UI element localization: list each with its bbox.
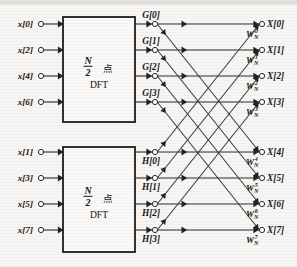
output-label-X2: X[2] bbox=[266, 71, 284, 81]
twiddle-label-3: WN3 bbox=[246, 106, 259, 118]
top-dft-block-denominator: 2 bbox=[85, 67, 91, 78]
mid-node-H1 bbox=[152, 175, 157, 180]
twiddle-label-0: WN0 bbox=[246, 28, 259, 40]
input-node-0 bbox=[38, 21, 43, 26]
edge-mid-arrowhead-1 bbox=[182, 47, 188, 54]
input-node-3 bbox=[38, 99, 43, 104]
mid-label-G3: G[3] bbox=[142, 88, 160, 98]
input-node-7 bbox=[38, 227, 43, 232]
dft-out-arrowhead-2 bbox=[146, 73, 152, 80]
input-node-2 bbox=[38, 73, 43, 78]
edge-start-arrowhead-1-5 bbox=[160, 55, 166, 61]
output-node-2 bbox=[259, 73, 264, 78]
mid-node-G2 bbox=[152, 73, 157, 78]
input-label-x7: x[7] bbox=[17, 225, 33, 235]
input-node-6 bbox=[38, 201, 43, 206]
bottom-dft-block-denominator: 2 bbox=[85, 197, 91, 208]
dft-out-arrowhead-5 bbox=[146, 175, 152, 182]
mid-label-G2: G[2] bbox=[142, 62, 160, 72]
mid-label-G0: G[0] bbox=[142, 10, 160, 20]
mid-node-H2 bbox=[152, 201, 157, 206]
edge-start-arrowhead-7-3 bbox=[160, 219, 166, 225]
dft-out-arrowhead-1 bbox=[146, 47, 152, 54]
twiddle-label-2: WN2 bbox=[246, 80, 259, 92]
fft-butterfly-diagram: x[0]x[2]x[4]x[6]x[1]x[3]x[5]x[7]N2点DFTN2… bbox=[0, 0, 297, 267]
output-label-X4: X[4] bbox=[266, 147, 284, 157]
input-label-x4: x[4] bbox=[17, 71, 33, 81]
twiddle-label-7: WN7 bbox=[246, 234, 259, 246]
input-label-x2: x[2] bbox=[17, 45, 33, 55]
edge-start-arrowhead-5-1 bbox=[160, 167, 166, 173]
mid-node-H3 bbox=[152, 227, 157, 232]
output-label-X3: X[3] bbox=[266, 97, 284, 107]
bottom-dft-block bbox=[63, 147, 135, 252]
mid-node-G3 bbox=[152, 99, 157, 104]
top-dft-block-point-char: 点 bbox=[103, 63, 113, 74]
dft-out-arrowhead-3 bbox=[146, 99, 152, 106]
edge-start-arrowhead-6-2 bbox=[160, 193, 166, 199]
bottom-dft-block-dft-label: DFT bbox=[90, 209, 108, 220]
output-label-X0: X[0] bbox=[266, 19, 284, 29]
bottom-dft-block-point-char: 点 bbox=[103, 193, 113, 204]
input-label-x3: x[3] bbox=[17, 173, 33, 183]
edge-start-arrowhead-3-7 bbox=[160, 107, 166, 113]
edge-mid-arrowhead-2 bbox=[182, 73, 188, 80]
mid-node-G0 bbox=[152, 21, 157, 26]
dft-out-arrowhead-7 bbox=[146, 227, 152, 234]
top-dft-block-numerator: N bbox=[83, 55, 92, 66]
output-node-1 bbox=[259, 47, 264, 52]
input-label-x0: x[0] bbox=[17, 19, 33, 29]
edge-start-arrowhead-0-4 bbox=[160, 29, 166, 35]
dft-out-arrowhead-4 bbox=[146, 149, 152, 156]
output-label-X1: X[1] bbox=[266, 45, 284, 55]
output-node-7 bbox=[259, 227, 264, 232]
input-node-5 bbox=[38, 175, 43, 180]
mid-label-H0: H[0] bbox=[141, 156, 160, 166]
output-label-X6: X[6] bbox=[266, 199, 284, 209]
mid-label-H3: H[3] bbox=[141, 234, 160, 244]
edge-mid-arrowhead-4 bbox=[182, 149, 188, 156]
mid-label-G1: G[1] bbox=[142, 36, 160, 46]
twiddle-label-4: WN4 bbox=[246, 156, 259, 168]
edge-mid-arrowhead-0 bbox=[182, 21, 188, 28]
output-node-6 bbox=[259, 201, 264, 206]
twiddle-label-6: WN6 bbox=[246, 208, 259, 220]
bottom-dft-block-numerator: N bbox=[83, 185, 92, 196]
edge-mid-arrowhead-6 bbox=[182, 201, 188, 208]
edge-start-arrowhead-2-6 bbox=[160, 81, 166, 87]
mid-label-H1: H[1] bbox=[141, 182, 160, 192]
diagram-canvas: x[0]x[2]x[4]x[6]x[1]x[3]x[5]x[7]N2点DFTN2… bbox=[0, 0, 297, 267]
output-node-0 bbox=[259, 21, 264, 26]
input-label-x6: x[6] bbox=[17, 97, 33, 107]
input-label-x1: x[1] bbox=[17, 147, 33, 157]
top-dft-block-dft-label: DFT bbox=[90, 79, 108, 90]
edge-mid-arrowhead-3 bbox=[182, 99, 188, 106]
twiddle-label-1: WN1 bbox=[246, 54, 259, 66]
output-node-3 bbox=[259, 99, 264, 104]
output-node-4 bbox=[259, 149, 264, 154]
dft-out-arrowhead-6 bbox=[146, 201, 152, 208]
top-dft-block bbox=[63, 17, 135, 122]
input-node-4 bbox=[38, 149, 43, 154]
input-label-x5: x[5] bbox=[17, 199, 33, 209]
twiddle-label-5: WN5 bbox=[246, 182, 259, 194]
edge-mid-arrowhead-5 bbox=[182, 175, 188, 182]
output-label-X5: X[5] bbox=[266, 173, 284, 183]
dft-out-arrowhead-0 bbox=[146, 21, 152, 28]
mid-node-H0 bbox=[152, 149, 157, 154]
mid-label-H2: H[2] bbox=[141, 208, 160, 218]
mid-node-G1 bbox=[152, 47, 157, 52]
output-node-5 bbox=[259, 175, 264, 180]
edge-mid-arrowhead-7 bbox=[182, 227, 188, 234]
output-label-X7: X[7] bbox=[266, 225, 284, 235]
edge-start-arrowhead-4-0 bbox=[160, 141, 166, 147]
input-node-1 bbox=[38, 47, 43, 52]
